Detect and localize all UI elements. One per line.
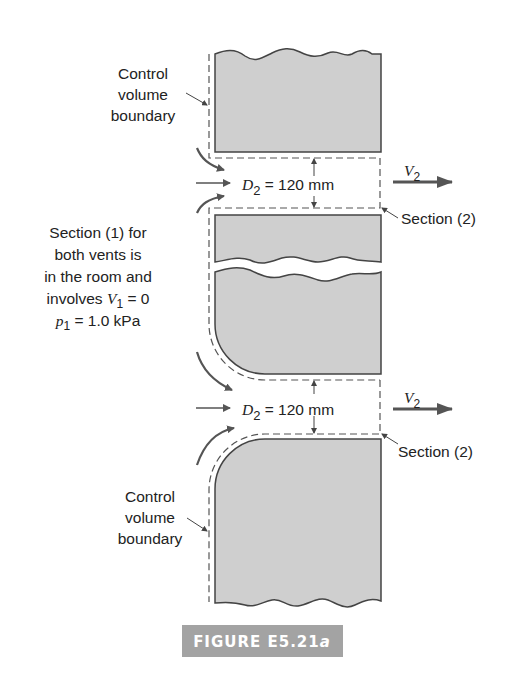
svg-text:both vents is: both vents is — [54, 246, 141, 263]
leader-arrow-icon — [187, 518, 207, 531]
vent-diameter-label: D2 = 120 mm — [241, 401, 334, 423]
svg-text:Section (1) for: Section (1) for — [49, 224, 146, 241]
section2-label-bottom: Section (2) — [398, 443, 473, 460]
control-volume-label-top: Control volume boundary — [111, 65, 176, 124]
svg-text:boundary: boundary — [111, 107, 176, 124]
figure-caption: FIGURE E5.21a — [193, 633, 331, 651]
inflow-arrow-icon — [197, 352, 232, 390]
svg-text:Control: Control — [118, 65, 168, 82]
top-wall-block — [215, 49, 381, 152]
svg-text:boundary: boundary — [118, 530, 183, 547]
inflow-arrow-icon — [197, 196, 224, 213]
middle-wall-lower — [215, 268, 381, 374]
svg-text:Control: Control — [125, 488, 175, 505]
svg-text:volume: volume — [118, 86, 168, 103]
section2-label-top: Section (2) — [401, 210, 476, 227]
control-volume-label-bottom: Control volume boundary — [118, 488, 183, 547]
section1-note: Section (1) for both vents is in the roo… — [44, 224, 152, 333]
svg-text:in the room and: in the room and — [44, 268, 152, 285]
svg-text:volume: volume — [125, 509, 175, 526]
leader-arrow-icon — [186, 93, 207, 105]
vent-diameter-label: D2 = 120 mm — [241, 176, 334, 198]
middle-wall-upper — [215, 215, 381, 263]
bottom-wall-block — [215, 439, 381, 607]
svg-text:involves V1 = 0: involves V1 = 0 — [47, 290, 150, 311]
vent-diagram: Control volume boundary Section (1) for … — [0, 0, 525, 682]
leader-arrow-icon — [382, 434, 398, 444]
leader-arrow-icon — [382, 208, 398, 218]
svg-text:p1 = 1.0 kPa: p1 = 1.0 kPa — [55, 312, 141, 333]
figure-canvas: Control volume boundary Section (1) for … — [0, 0, 525, 682]
